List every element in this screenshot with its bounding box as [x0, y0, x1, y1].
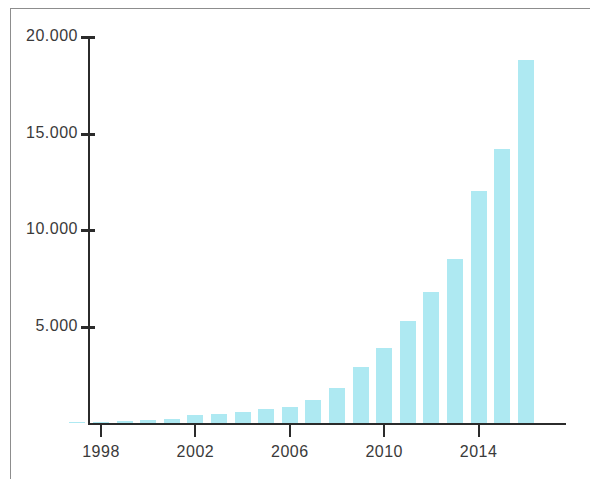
bar — [305, 400, 321, 423]
bar — [471, 191, 487, 423]
bar — [258, 409, 274, 423]
bar — [117, 421, 133, 423]
bar — [494, 149, 510, 423]
bar — [423, 292, 439, 423]
bar — [447, 259, 463, 423]
bar — [376, 348, 392, 423]
bar — [282, 407, 298, 423]
bar — [164, 419, 180, 423]
bar — [187, 415, 203, 423]
bar — [211, 414, 227, 423]
bar — [140, 420, 156, 423]
bar — [329, 388, 345, 423]
bar — [93, 422, 109, 423]
bars-layer — [0, 0, 590, 479]
bar-chart-figure: 20.00015.00010.0005.000 1998200220062010… — [0, 0, 590, 479]
plot-area: 20.00015.00010.0005.000 1998200220062010… — [0, 0, 590, 479]
bar — [400, 321, 416, 423]
bar — [235, 412, 251, 423]
bar — [353, 367, 369, 423]
bar — [69, 422, 85, 423]
bar — [518, 60, 534, 423]
